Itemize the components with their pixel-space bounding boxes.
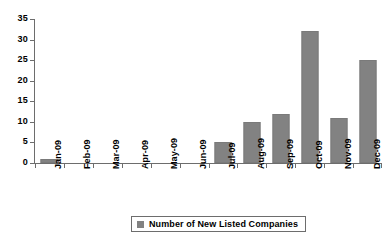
x-axis-tick-mark xyxy=(180,164,181,168)
x-axis-tick-label: Jan-09 xyxy=(53,140,63,169)
y-axis-tick-label: 10 xyxy=(18,117,28,126)
x-axis-label-slot: Jul-09 xyxy=(209,169,238,213)
x-axis-tick-mark xyxy=(122,164,123,168)
x-axis-tick-label: Feb-09 xyxy=(82,139,92,169)
x-axis-label-slot: Mar-09 xyxy=(93,169,122,213)
legend-swatch-icon xyxy=(137,221,144,228)
y-axis-tick-label: 15 xyxy=(18,96,28,105)
y-axis-tick-label: 5 xyxy=(23,137,28,146)
x-axis-tick-label: Nov-09 xyxy=(343,138,353,169)
x-axis-label-slot: Apr-09 xyxy=(122,169,151,213)
legend-label: Number of New Listed Companies xyxy=(149,219,298,229)
x-axis-label-slot: Dec-09 xyxy=(353,169,382,213)
x-axis-tick-mark xyxy=(353,164,354,168)
y-axis: 35302520151050 xyxy=(0,0,33,243)
x-axis-label-slot: Feb-09 xyxy=(64,169,93,213)
x-axis-tick-mark xyxy=(209,164,210,168)
bar-chart: 35302520151050 Jan-09Feb-09Mar-09Apr-09M… xyxy=(0,0,391,243)
x-axis-tick-mark xyxy=(151,164,152,168)
x-axis-tick-mark xyxy=(381,164,382,168)
x-axis-tick-mark xyxy=(93,164,94,168)
x-axis-label-slot: Oct-09 xyxy=(295,169,324,213)
x-axis-label-slot: May-09 xyxy=(151,169,180,213)
x-axis-label-slot: Jan-09 xyxy=(35,169,64,213)
x-axis-tick-mark xyxy=(35,164,36,168)
x-axis-label-slot: Nov-09 xyxy=(324,169,353,213)
x-axis-tick-mark xyxy=(324,164,325,168)
x-axis-tick-label: Jul-09 xyxy=(227,142,237,169)
y-axis-tick-label: 35 xyxy=(18,14,28,23)
x-axis-tick-mark xyxy=(295,164,296,168)
x-axis-tick-label: May-09 xyxy=(169,138,179,169)
y-axis-tick-label: 30 xyxy=(18,35,28,44)
x-axis-tick-label: Sep-09 xyxy=(285,139,295,169)
x-axis-tick-label: Apr-09 xyxy=(140,140,150,169)
x-axis-tick-label: Mar-09 xyxy=(111,139,121,169)
x-axis-label-slot: Jun-09 xyxy=(180,169,209,213)
chart-legend: Number of New Listed Companies xyxy=(131,216,306,232)
x-axis-tick-label: Jun-09 xyxy=(198,139,208,169)
x-axis-tick-mark xyxy=(266,164,267,168)
x-axis-tick-label: Oct-09 xyxy=(314,140,324,169)
x-axis-tick-label: Aug-09 xyxy=(256,138,266,169)
x-axis-tick-mark xyxy=(64,164,65,168)
y-axis-tick-label: 0 xyxy=(23,158,28,167)
x-axis-labels: Jan-09Feb-09Mar-09Apr-09May-09Jun-09Jul-… xyxy=(35,169,382,213)
x-axis-label-slot: Sep-09 xyxy=(266,169,295,213)
x-axis-label-slot: Aug-09 xyxy=(237,169,266,213)
y-axis-tick-label: 20 xyxy=(18,76,28,85)
y-axis-tick-label: 25 xyxy=(18,55,28,64)
x-axis-tick-mark xyxy=(237,164,238,168)
